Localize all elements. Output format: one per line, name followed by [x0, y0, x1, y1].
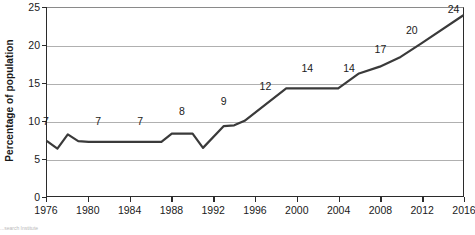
data-point-label: 20 [406, 24, 418, 36]
y-tick-mark [42, 83, 47, 84]
x-tick-mark [130, 197, 131, 202]
data-point-label: 17 [375, 43, 387, 55]
source-note: ...search Institute [0, 225, 120, 231]
x-tick-label: 2008 [369, 204, 392, 216]
x-tick-label: 2000 [285, 204, 308, 216]
x-tick-mark [339, 197, 340, 202]
data-line-series [47, 8, 463, 196]
data-point-label: 8 [179, 105, 185, 117]
chart-screenshot: Percentage of population 0510152025 1976… [0, 0, 475, 235]
data-point-label: 7 [95, 115, 101, 127]
x-tick-mark [213, 197, 214, 202]
y-axis-title-label: Percentage of population [4, 39, 15, 161]
y-tick-mark [42, 7, 47, 8]
x-tick-label: 1992 [202, 204, 225, 216]
data-point-label: 24 [448, 3, 460, 15]
x-tick-mark [171, 197, 172, 202]
data-point-label: 14 [301, 62, 313, 74]
x-tick-label: 1996 [243, 204, 266, 216]
data-point-label: 7 [137, 115, 143, 127]
y-tick-label: 10 [14, 115, 40, 127]
x-tick-mark [255, 197, 256, 202]
x-tick-label: 1984 [118, 204, 141, 216]
y-tick-label: 5 [14, 153, 40, 165]
x-tick-mark [380, 197, 381, 202]
x-tick-label: 1988 [160, 204, 183, 216]
data-point-label: 12 [260, 80, 272, 92]
y-axis-title: Percentage of population [0, 0, 18, 200]
x-tick-mark [46, 197, 47, 202]
y-tick-label: 15 [14, 77, 40, 89]
x-tick-mark [88, 197, 89, 202]
y-tick-mark [42, 159, 47, 160]
x-tick-label: 2004 [327, 204, 350, 216]
data-point-label: 7 [43, 115, 49, 127]
plot-area [46, 7, 464, 197]
x-tick-label: 1980 [76, 204, 99, 216]
y-tick-label: 20 [14, 39, 40, 51]
y-tick-label: 25 [14, 1, 40, 13]
x-tick-label: 2016 [452, 204, 475, 216]
x-tick-mark [464, 197, 465, 202]
x-tick-mark [422, 197, 423, 202]
data-point-label: 9 [221, 95, 227, 107]
x-tick-label: 1976 [34, 204, 57, 216]
y-tick-label: 0 [14, 191, 40, 203]
x-tick-label: 2012 [411, 204, 434, 216]
x-tick-mark [297, 197, 298, 202]
series-line [47, 16, 463, 149]
y-tick-mark [42, 45, 47, 46]
data-point-label: 14 [343, 62, 355, 74]
